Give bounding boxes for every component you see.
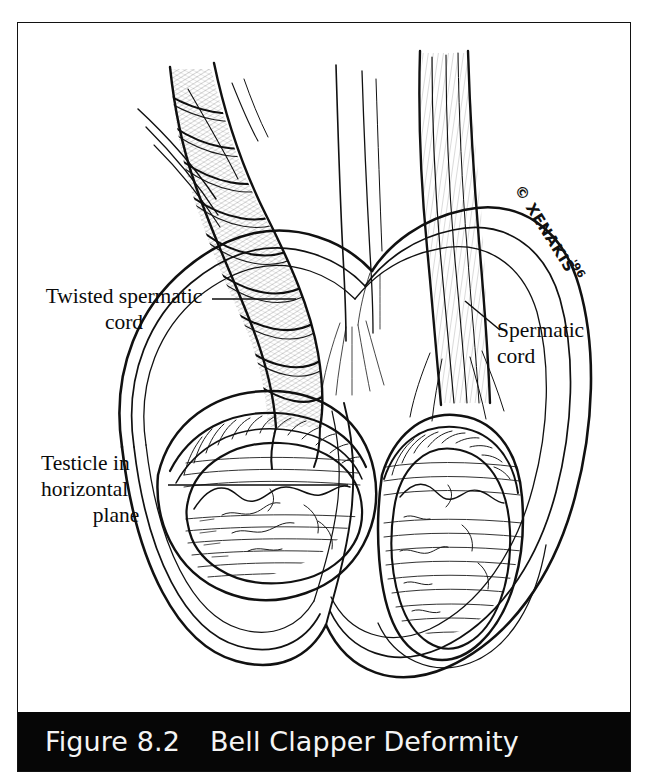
label-testicle-line2: horizontal — [41, 476, 191, 502]
label-twisted-cord-line1: Twisted spermatic — [34, 283, 214, 309]
label-twisted-spermatic-cord: Twisted spermatic cord — [34, 283, 214, 335]
label-testicle-line1: Testicle in — [41, 450, 191, 476]
label-testicle-line3: plane — [41, 502, 191, 528]
label-spermatic-cord-line1: Spermatic — [497, 317, 584, 343]
label-spermatic-cord: Spermatic cord — [497, 317, 584, 369]
figure-caption: Figure 8.2 Bell Clapper Deformity — [45, 712, 519, 771]
label-spermatic-cord-line2: cord — [497, 343, 584, 369]
figure-bell-clapper-deformity: © XENAKIS '96 Twisted spermatic cord Tes… — [0, 0, 646, 778]
figure-number: Figure 8.2 — [45, 728, 180, 755]
label-testicle-horizontal-plane: Testicle in horizontal plane — [41, 450, 191, 528]
figure-title: Bell Clapper Deformity — [210, 728, 519, 755]
figure-caption-bar: Figure 8.2 Bell Clapper Deformity — [18, 712, 630, 771]
label-twisted-cord-line2: cord — [34, 309, 214, 335]
